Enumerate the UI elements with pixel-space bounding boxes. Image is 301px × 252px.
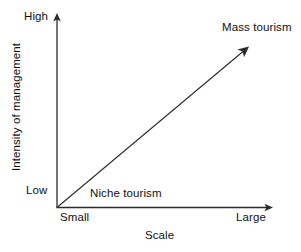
- x-axis-small-label: Small: [60, 211, 89, 223]
- y-axis-high-label: High: [24, 10, 48, 22]
- scale-vs-intensity-diagram: High Low Small Large Scale Niche tourism…: [0, 0, 301, 252]
- y-axis-low-label: Low: [26, 184, 47, 196]
- niche-tourism-label: Niche tourism: [90, 187, 162, 199]
- trend-arrowhead: [237, 47, 249, 58]
- x-axis-large-label: Large: [236, 211, 266, 223]
- trend-arrow-line: [58, 52, 244, 208]
- mass-tourism-label: Mass tourism: [222, 21, 292, 33]
- y-axis-title: Intensity of management: [10, 43, 22, 171]
- x-axis-title: Scale: [145, 229, 174, 241]
